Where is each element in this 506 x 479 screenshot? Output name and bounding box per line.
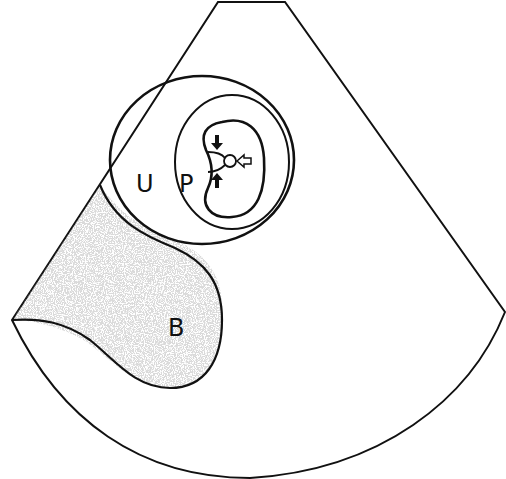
ultrasound-diagram: U P B [0,0,506,479]
arrow-left-hollow-icon [237,155,251,167]
inner-lumen-outline [204,121,265,218]
label-prostate: P [179,170,193,198]
label-urethra: U [136,170,154,198]
arrow-down-icon [211,135,223,150]
central-circle-icon [224,155,236,167]
prostate-ring [175,95,289,229]
label-bladder: B [168,314,184,342]
arrow-up-icon [211,173,223,188]
